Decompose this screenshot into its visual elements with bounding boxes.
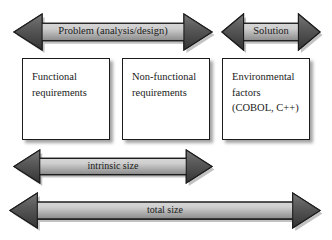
box-text-line: Non-functional — [132, 69, 203, 85]
box-text-line: Environmental — [232, 69, 303, 85]
box-text-line: Functional — [32, 69, 103, 85]
arrow-total-size-shape — [10, 193, 320, 234]
box-environmental-factors-text: Environmentalfactors(COBOL, C++) — [232, 69, 303, 116]
arrow-solution-shape — [222, 14, 320, 56]
arrow-total-size: total size — [10, 193, 320, 228]
box-text-line: requirements — [32, 85, 103, 101]
arrow-solution: Solution — [222, 14, 320, 50]
box-text-line: requirements — [132, 85, 203, 101]
arrow-problem: Problem (analysis/design) — [14, 14, 212, 50]
box-functional-requirements-text: Functionalrequirements — [32, 69, 103, 100]
arrow-problem-shape — [14, 14, 212, 56]
requirements-size-diagram: Problem (analysis/design) Solution Funct… — [0, 0, 332, 240]
box-text-line: factors — [232, 85, 303, 101]
box-non-functional-requirements: Non-functionalrequirements — [122, 58, 210, 140]
box-non-functional-requirements-text: Non-functionalrequirements — [132, 69, 203, 100]
arrow-intrinsic-size-shape — [14, 150, 212, 189]
box-environmental-factors: Environmentalfactors(COBOL, C++) — [222, 58, 310, 140]
box-functional-requirements: Functionalrequirements — [22, 58, 110, 140]
box-text-line: (COBOL, C++) — [232, 100, 303, 116]
arrow-intrinsic-size: intrinsic size — [14, 150, 212, 183]
